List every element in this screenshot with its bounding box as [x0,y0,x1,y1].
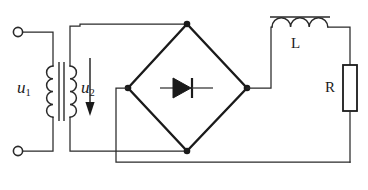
wire-secondary-top [70,24,187,66]
input-terminal-bottom-icon[interactable] [13,146,22,155]
transformer-secondary-coil [70,66,76,117]
label-u1: u1 [17,79,31,96]
input-terminal-top-icon[interactable] [13,27,22,36]
bridge-node-bottom-dot [184,148,191,155]
diode-triangle [173,78,191,98]
label-u2-subscript: 2 [90,87,95,98]
wire-inductor-to-load [328,27,350,65]
resistor-body [343,65,357,111]
load-resistor-symbol [343,65,357,162]
wire-dc-positive-to-inductor [247,27,272,88]
bridge-inner-diode-icon [160,78,213,98]
transformer-symbol [47,62,77,121]
inductor-coil [272,18,328,27]
bridge-rectifier-symbol [125,21,251,155]
circuit-diagram: u1 u2 L R [0,0,368,190]
inductor-symbol [270,17,350,65]
bridge-node-top-dot [184,21,191,28]
dc-side-wires [116,27,350,162]
label-u1-subscript: 1 [26,87,31,98]
label-u1-base: u [17,78,26,97]
label-inductor: L [291,36,300,51]
label-u2: u2 [81,79,95,96]
circuit-schematic-svg [0,0,368,190]
wire-primary-top [23,32,53,66]
wire-primary-bottom [23,117,53,151]
transformer-primary-coil [47,66,53,117]
label-u2-base: u [81,78,90,97]
label-resistor: R [325,80,335,95]
voltage-arrow-u2-head [85,102,94,116]
